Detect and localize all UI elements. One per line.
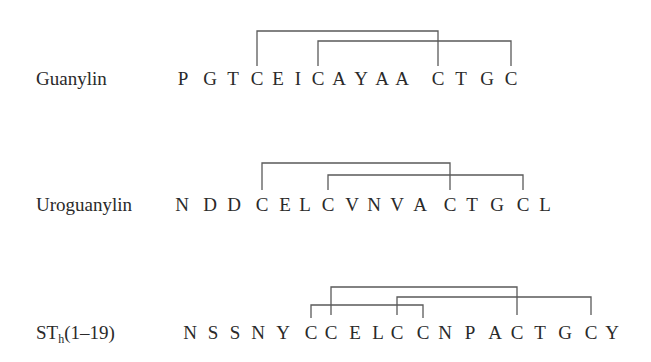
amino-acid-residue: E xyxy=(279,194,291,215)
amino-acid-residue: V xyxy=(390,194,404,215)
cysteine-residue: C xyxy=(517,194,530,215)
cysteine-residue: C xyxy=(256,194,269,215)
amino-acid-residue: A xyxy=(395,68,409,89)
disulfide-bond-bracket xyxy=(262,163,450,190)
amino-acid-residue: N xyxy=(183,322,197,343)
cysteine-residue: C xyxy=(444,194,457,215)
peptide-row: STh(1–19)NSSNYCCELCCNPACTGCY xyxy=(36,287,619,346)
amino-acid-residue: N xyxy=(175,194,189,215)
cysteine-residue: C xyxy=(432,68,445,89)
amino-acid-residue: N xyxy=(367,194,381,215)
amino-acid-residue: T xyxy=(227,68,239,89)
cysteine-residue: C xyxy=(417,322,430,343)
amino-acid-residue: G xyxy=(203,68,217,89)
amino-acid-residue: T xyxy=(455,68,467,89)
amino-acid-residue: D xyxy=(203,194,217,215)
amino-acid-residue: Y xyxy=(354,68,368,89)
amino-acid-residue: E xyxy=(349,322,361,343)
peptide-label: Uroguanylin xyxy=(36,194,133,215)
cysteine-residue: C xyxy=(322,194,335,215)
disulfide-bond-diagram: GuanylinPGTCEICAYAACTGCUroguanylinNDDCEL… xyxy=(0,0,651,362)
amino-acid-residue: A xyxy=(332,68,346,89)
amino-acid-residue: V xyxy=(345,194,359,215)
amino-acid-residue: P xyxy=(178,68,189,89)
amino-acid-residue: G xyxy=(558,322,572,343)
disulfide-bond-bracket xyxy=(331,287,517,315)
amino-acid-residue: G xyxy=(480,68,494,89)
disulfide-bond-bracket xyxy=(318,41,511,66)
peptide-row: UroguanylinNDDCELCVNVACTGCL xyxy=(36,163,551,215)
amino-acid-residue: A xyxy=(488,322,502,343)
peptide-label: Guanylin xyxy=(36,68,107,89)
cysteine-residue: C xyxy=(505,68,518,89)
amino-acid-residue: P xyxy=(465,322,476,343)
cysteine-residue: C xyxy=(391,322,404,343)
disulfide-bond-bracket xyxy=(328,175,523,190)
amino-acid-residue: I xyxy=(295,68,301,89)
amino-acid-residue: D xyxy=(227,194,241,215)
cysteine-residue: C xyxy=(305,322,318,343)
amino-acid-residue: L xyxy=(372,322,384,343)
amino-acid-residue: A xyxy=(375,68,389,89)
amino-acid-residue: T xyxy=(534,322,546,343)
cysteine-residue: C xyxy=(312,68,325,89)
cysteine-residue: C xyxy=(325,322,338,343)
cysteine-residue: C xyxy=(511,322,524,343)
peptide-label: STh(1–19) xyxy=(36,322,115,346)
cysteine-residue: C xyxy=(585,322,598,343)
cysteine-residue: C xyxy=(251,68,264,89)
amino-acid-residue: N xyxy=(438,322,452,343)
amino-acid-residue: S xyxy=(230,322,241,343)
amino-acid-residue: S xyxy=(208,322,219,343)
disulfide-bond-bracket xyxy=(397,297,591,315)
amino-acid-residue: G xyxy=(490,194,504,215)
amino-acid-residue: E xyxy=(272,68,284,89)
amino-acid-residue: L xyxy=(539,194,551,215)
amino-acid-residue: L xyxy=(299,194,311,215)
amino-acid-residue: Y xyxy=(605,322,619,343)
amino-acid-residue: T xyxy=(466,194,478,215)
peptide-row: GuanylinPGTCEICAYAACTGC xyxy=(36,31,517,89)
amino-acid-residue: Y xyxy=(276,322,290,343)
amino-acid-residue: A xyxy=(413,194,427,215)
disulfide-bond-bracket xyxy=(257,31,438,66)
amino-acid-residue: N xyxy=(251,322,265,343)
disulfide-bond-bracket xyxy=(311,305,423,318)
